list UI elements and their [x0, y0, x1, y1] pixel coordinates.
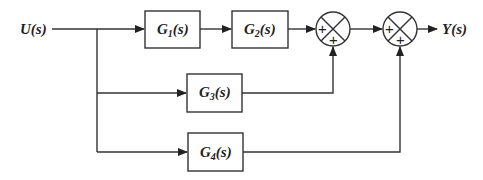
svg-text:G3(s): G3(s) — [199, 84, 231, 102]
svg-text:G2(s): G2(s) — [244, 21, 276, 39]
block-diagram: U(s) G1(s) G2(s) + + + + Y(s) G3(s) — [0, 0, 483, 180]
block-g3: G3(s) — [187, 74, 242, 112]
wire-g3-s1 — [242, 47, 333, 93]
svg-text:+: + — [329, 31, 338, 48]
summing-junction-1: + + — [316, 12, 350, 48]
block-g1: G1(s) — [145, 11, 200, 48]
svg-text:G1(s): G1(s) — [157, 21, 189, 39]
svg-text:G4(s): G4(s) — [200, 144, 232, 162]
wire-g4-s2 — [243, 47, 400, 152]
svg-text:+: + — [318, 20, 327, 37]
block-g2: G2(s) — [232, 11, 288, 48]
input-label: U(s) — [20, 21, 47, 38]
svg-text:+: + — [385, 20, 394, 37]
svg-text:+: + — [396, 31, 405, 48]
output-label: Y(s) — [442, 21, 467, 38]
summing-junction-2: + + — [383, 12, 417, 48]
block-g4: G4(s) — [188, 133, 243, 171]
